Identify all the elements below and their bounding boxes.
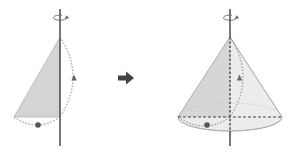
sweep-path-side [60, 37, 73, 117]
direction-arrowhead-icon [71, 75, 76, 81]
moving-point-marker [204, 122, 210, 128]
right-figure [178, 9, 282, 146]
diagram-canvas [0, 0, 294, 160]
rotation-arrow-icon [224, 15, 240, 20]
left-figure [14, 9, 77, 146]
right-triangle [14, 37, 60, 117]
transition-arrow-icon [118, 72, 134, 85]
moving-point-marker [35, 122, 41, 128]
rotation-arrow-icon [54, 15, 70, 20]
